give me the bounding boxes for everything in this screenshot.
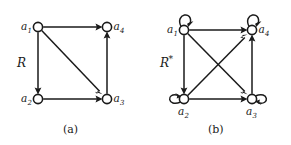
caption-panel-a: (a) bbox=[63, 123, 78, 136]
edge-a2-to-a3-panel-b bbox=[189, 96, 247, 103]
panel-a-group: a 1 a 4 a 2 a 3 R (a) bbox=[16, 20, 125, 136]
node-a2-panel-a[interactable] bbox=[33, 94, 42, 103]
svg-text:*: * bbox=[169, 54, 174, 64]
edge-a1-to-a2-panel-b bbox=[181, 35, 188, 94]
node-a1-panel-b[interactable] bbox=[179, 25, 188, 34]
edge-a1-to-a4 bbox=[43, 24, 102, 31]
svg-text:2: 2 bbox=[27, 99, 33, 107]
node-a3-panel-a[interactable] bbox=[102, 94, 111, 103]
edge-a3-to-a4 bbox=[104, 32, 111, 94]
node-a1-panel-a[interactable] bbox=[33, 22, 42, 31]
node-a4-panel-b[interactable] bbox=[247, 25, 256, 34]
edge-a1-to-a2 bbox=[35, 32, 42, 94]
svg-text:a: a bbox=[167, 23, 173, 35]
node-label-a4-panel-b: a 4 bbox=[259, 23, 270, 38]
svg-text:3: 3 bbox=[253, 112, 258, 120]
svg-text:1: 1 bbox=[174, 30, 178, 38]
edge-a2-to-a3 bbox=[43, 96, 102, 103]
svg-text:a: a bbox=[114, 92, 120, 104]
svg-text:a: a bbox=[21, 92, 27, 104]
node-a2-panel-b[interactable] bbox=[179, 94, 188, 103]
svg-text:3: 3 bbox=[120, 99, 125, 107]
svg-text:a: a bbox=[259, 23, 265, 35]
graph-figure-svg: a 1 a 4 a 2 a 3 R (a) bbox=[0, 0, 291, 145]
node-label-a3-panel-a: a 3 bbox=[114, 92, 126, 107]
svg-text:a: a bbox=[21, 20, 27, 32]
svg-text:2: 2 bbox=[184, 112, 190, 120]
node-label-a2-panel-b: a 2 bbox=[178, 105, 190, 120]
relation-label-panel-b: R * bbox=[159, 54, 174, 70]
edge-a3-to-a4-panel-b bbox=[249, 35, 256, 94]
edge-a1-to-a4-panel-b bbox=[189, 27, 247, 34]
node-a4-panel-a[interactable] bbox=[102, 22, 111, 31]
node-label-a3-panel-b: a 3 bbox=[246, 105, 258, 120]
svg-text:4: 4 bbox=[119, 27, 124, 35]
relation-label-panel-a: R bbox=[16, 56, 26, 70]
node-label-a1-panel-b: a 1 bbox=[167, 23, 178, 38]
svg-text:a: a bbox=[114, 20, 120, 32]
edge-a1-to-a3 bbox=[42, 31, 103, 95]
node-label-a2-panel-a: a 2 bbox=[21, 92, 33, 107]
svg-text:a: a bbox=[178, 105, 184, 117]
svg-text:4: 4 bbox=[264, 30, 269, 38]
node-label-a1-panel-a: a 1 bbox=[21, 20, 32, 35]
svg-text:1: 1 bbox=[28, 27, 32, 35]
figure-container: a 1 a 4 a 2 a 3 R (a) bbox=[0, 0, 291, 145]
node-a3-panel-b[interactable] bbox=[247, 94, 256, 103]
panel-b-group: a 1 a 4 a 2 a 3 R * (b) bbox=[159, 15, 269, 136]
caption-panel-b: (b) bbox=[208, 123, 224, 136]
node-label-a4-panel-a: a 4 bbox=[114, 20, 125, 35]
svg-text:a: a bbox=[246, 105, 252, 117]
